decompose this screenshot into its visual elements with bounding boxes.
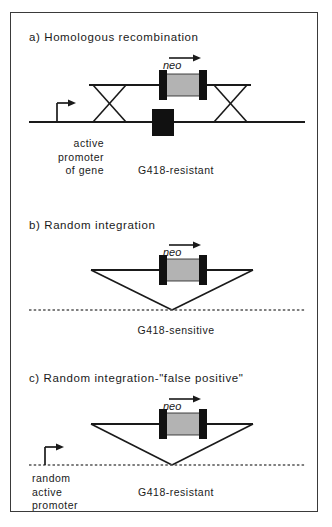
neo-cassette-b bbox=[159, 255, 207, 285]
panel-c: c) Random integration-"false positive" n… bbox=[11, 352, 317, 513]
neo-transcription-arrow-b bbox=[169, 241, 201, 248]
panel-a: a) Homologous recombination neo bbox=[11, 13, 317, 191]
panel-c-outcome-label: G418-resistant bbox=[111, 486, 241, 500]
neo-cassette-c bbox=[159, 409, 207, 439]
crossover-right-a bbox=[214, 85, 247, 122]
panel-b: b) Random integration neo bbox=[11, 191, 317, 352]
panel-b-outcome-label: G418-sensitive bbox=[111, 324, 241, 338]
crossover-left-a bbox=[93, 85, 126, 122]
neo-transcription-arrow-a bbox=[169, 54, 201, 61]
active-promoter-arrow-a bbox=[57, 99, 76, 122]
panel-a-promoter-caption: active promoter of gene bbox=[19, 137, 104, 178]
panel-a-outcome-label: G418-resistant bbox=[111, 164, 241, 178]
figure-border: a) Homologous recombination neo bbox=[10, 12, 318, 512]
neo-cassette-a bbox=[159, 70, 207, 100]
figure-gene-targeting: a) Homologous recombination neo bbox=[0, 0, 332, 527]
neo-transcription-arrow-c bbox=[169, 395, 201, 402]
random-active-promoter-arrow-c bbox=[45, 443, 64, 465]
exon-block-a bbox=[152, 109, 174, 136]
